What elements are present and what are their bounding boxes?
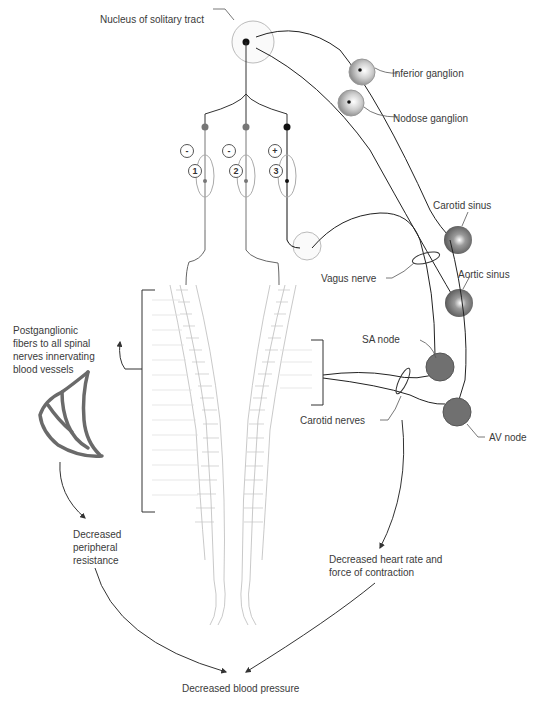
vagus-nerve-marker xyxy=(386,250,441,278)
vertebral-column-left xyxy=(170,285,225,625)
label-carotid-nerves: Carotid nerves xyxy=(300,414,365,427)
pathway-1-sign: - xyxy=(180,144,194,158)
pathway-2-sign: - xyxy=(222,144,236,158)
pathway-3-number: 3 xyxy=(269,164,283,178)
label-inferior-ganglion: Inferior ganglion xyxy=(392,67,464,80)
label-nucleus-of-solitary-tract: Nucleus of solitary tract xyxy=(100,13,204,26)
label-sa-node: SA node xyxy=(362,333,400,346)
pathway-1-number: 1 xyxy=(188,164,202,178)
vertebrae xyxy=(176,290,290,522)
label-decreased-blood-pressure: Decreased blood pressure xyxy=(182,682,299,695)
central-pathway xyxy=(205,42,287,124)
label-carotid-sinus: Carotid sinus xyxy=(433,199,491,212)
inferior-ganglion xyxy=(349,59,398,85)
vagal-synapse xyxy=(287,213,440,371)
sa-node xyxy=(420,340,454,381)
nodose-ganglion xyxy=(338,90,398,117)
sympathetic-lines-right xyxy=(280,350,312,388)
label-vagus-nerve: Vagus nerve xyxy=(321,272,376,285)
pathway-2-number: 2 xyxy=(229,164,243,178)
carotid-sinus xyxy=(444,212,472,254)
preganglionic-neurons xyxy=(196,124,296,241)
vertebral-column-right xyxy=(241,285,296,625)
blood-vessel-icon xyxy=(40,372,102,456)
spinal-cord xyxy=(186,230,279,285)
sympathetic-bracket-left xyxy=(120,290,155,512)
label-postganglionic-fibers: Postganglionic fibers to all spinal nerv… xyxy=(13,324,103,376)
label-decreased-heart-rate: Decreased heart rate and force of contra… xyxy=(329,553,449,579)
sympathetic-bracket-right xyxy=(311,340,323,405)
label-av-node: AV node xyxy=(489,431,527,444)
av-node xyxy=(443,398,485,437)
pathway-3-sign: + xyxy=(268,144,282,158)
label-nodose-ganglion: Nodose ganglion xyxy=(393,112,468,125)
cardiac-nerves xyxy=(323,240,466,420)
label-aortic-sinus: Aortic sinus xyxy=(458,268,510,281)
nucleus-of-solitary-tract xyxy=(213,9,274,63)
label-decreased-peripheral-resistance: Decreased peripheral resistance xyxy=(73,528,133,567)
